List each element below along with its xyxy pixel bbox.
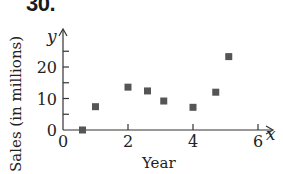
data-point — [190, 104, 197, 111]
data-point — [225, 53, 232, 60]
x-axis-label: Year — [141, 154, 176, 172]
data-point — [212, 89, 219, 96]
scatter-chart: 010200246 Sales (in millions) Year x y — [0, 0, 283, 174]
y-tick-label: 0 — [47, 121, 57, 140]
x-tick-label: 4 — [188, 132, 198, 151]
data-points — [79, 53, 232, 133]
x-tick-label: 2 — [123, 132, 133, 151]
data-point — [144, 87, 151, 94]
ticks: 010200246 — [37, 51, 263, 151]
y-tick-label: 20 — [37, 58, 57, 77]
data-point — [160, 98, 167, 105]
x-tick-label: 0 — [58, 132, 68, 151]
y-tick-label: 10 — [37, 90, 57, 109]
data-point — [92, 103, 99, 110]
data-point — [125, 84, 132, 91]
axes — [59, 29, 273, 134]
y-axis-variable: y — [46, 26, 57, 46]
data-point — [79, 127, 86, 134]
y-axis-label: Sales (in millions) — [7, 36, 25, 172]
x-axis-variable: x — [266, 124, 276, 144]
x-tick-label: 6 — [253, 132, 263, 151]
